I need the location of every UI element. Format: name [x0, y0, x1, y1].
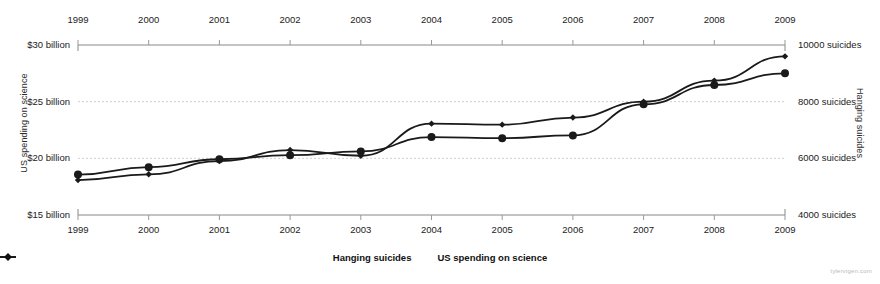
- data-point-marker: [428, 120, 434, 126]
- x-axis-bottom-tick-label: 2003: [331, 224, 391, 235]
- x-axis-bottom-tick-label: 2007: [614, 224, 674, 235]
- legend-label: US spending on science: [437, 252, 547, 263]
- x-axis-bottom-tick-label: 1999: [48, 224, 108, 235]
- x-axis-top-tick-label: 2001: [189, 14, 249, 25]
- x-axis-bottom-tick-label: 2004: [402, 224, 462, 235]
- x-axis-bottom-tick-label: 2001: [189, 224, 249, 235]
- y-axis-left-tick-label: $25 billion: [4, 96, 70, 107]
- x-axis-top-tick-label: 2004: [402, 14, 462, 25]
- x-axis-bottom-tick-label: 2006: [543, 224, 603, 235]
- x-axis-bottom-tick-label: 2005: [472, 224, 532, 235]
- small-diamond-marker-icon: [0, 252, 16, 262]
- y-axis-left-tick-label: $30 billion: [4, 39, 70, 50]
- x-axis-bottom-tick-label: 2002: [260, 224, 320, 235]
- x-axis-top-tick-label: 2002: [260, 14, 320, 25]
- data-point-marker: [570, 114, 576, 120]
- x-axis-top-tick-label: 2008: [684, 14, 744, 25]
- x-axis-bottom-tick-label: 2008: [684, 224, 744, 235]
- x-axis-top-tick-label: 2007: [614, 14, 674, 25]
- gridlines: [78, 102, 785, 159]
- y-axis-right-tick-label: 10000 suicides: [798, 39, 861, 50]
- x-axis-top-tick-label: 2006: [543, 14, 603, 25]
- x-axis-top-tick-label: 2009: [755, 14, 815, 25]
- y-axis-right-tick-label: 4000 suicides: [798, 209, 856, 220]
- x-axis-top-tick-label: 2005: [472, 14, 532, 25]
- y-axis-right-tick-label: 6000 suicides: [798, 152, 856, 163]
- chart-container: US spending on science Hanging suicides …: [0, 0, 880, 284]
- watermark: tylervigen.com: [831, 268, 872, 274]
- data-point-marker: [499, 121, 505, 127]
- x-axis-bottom-tick-label: 2009: [755, 224, 815, 235]
- x-axis-top-tick-label: 2003: [331, 14, 391, 25]
- data-point-marker: [782, 53, 788, 59]
- data-point-marker: [498, 134, 506, 142]
- legend-item-hanging-suicides[interactable]: Hanging suicides: [333, 252, 412, 263]
- legend-item-us-spending-on-science[interactable]: US spending on science: [437, 252, 547, 263]
- data-point-marker: [569, 131, 577, 139]
- y-axis-right-tick-label: 8000 suicides: [798, 96, 856, 107]
- data-point-marker: [781, 69, 789, 77]
- data-point-marker: [145, 163, 153, 171]
- data-series-layer: [74, 53, 789, 183]
- series-line: [78, 56, 785, 180]
- data-point-marker: [146, 171, 152, 177]
- chart-legend: Hanging suicides US spending on science: [0, 252, 880, 263]
- y-axis-left-tick-label: $15 billion: [4, 209, 70, 220]
- x-axis-top-tick-label: 1999: [48, 14, 108, 25]
- axis-lines: [78, 40, 785, 220]
- plot-area: [0, 0, 880, 284]
- data-point-marker: [428, 133, 436, 141]
- x-axis-bottom-tick-label: 2000: [119, 224, 179, 235]
- y-axis-left-tick-label: $20 billion: [4, 152, 70, 163]
- x-axis-top-tick-label: 2000: [119, 14, 179, 25]
- legend-label: Hanging suicides: [333, 252, 412, 263]
